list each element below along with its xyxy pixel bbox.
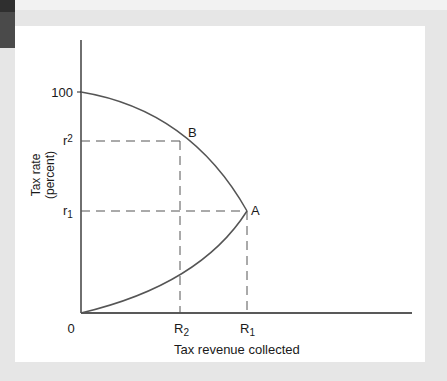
point-label-a: A <box>251 203 260 218</box>
x-tick-label-R2: R2 <box>174 321 189 338</box>
y-tick-label-r2: r2 <box>63 133 73 148</box>
laffer-curve-chart: 100 r2 r1 Tax rate (percent) B A 0 R2 R1… <box>0 0 447 381</box>
y-axis-label: Tax rate (percent) <box>29 151 57 199</box>
x-axis-label: Tax revenue collected <box>174 342 300 357</box>
point-label-b: B <box>188 125 197 140</box>
y-tick-label-r1: r1 <box>63 203 73 220</box>
dashed-guides <box>81 141 247 313</box>
y-axis-label-line2: (percent) <box>43 151 57 199</box>
curve-lower-branch <box>81 211 247 313</box>
y-tick-label-100: 100 <box>51 85 73 100</box>
x-tick-label-R1: R1 <box>240 321 255 338</box>
origin-label: 0 <box>67 321 74 336</box>
y-axis-label-line1: Tax rate <box>29 153 43 196</box>
curve-upper-branch <box>81 92 247 211</box>
